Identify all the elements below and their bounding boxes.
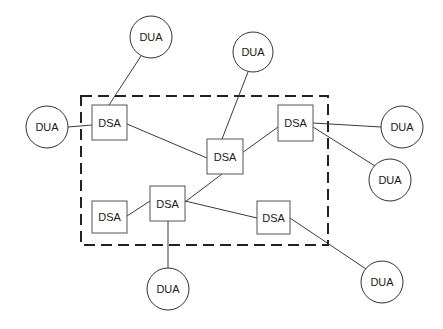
connector-dsa3-dua4 bbox=[313, 123, 381, 127]
node-label: DUA bbox=[35, 121, 59, 133]
dsa-node-dsa5: DSA bbox=[150, 186, 185, 221]
dua-node-dua3: DUA bbox=[233, 32, 273, 72]
dua-node-dua5: DUA bbox=[369, 159, 411, 201]
dua-node-dua6: DUA bbox=[147, 268, 189, 310]
connector-dsa2-dsa3 bbox=[242, 127, 278, 153]
node-label: DSA bbox=[262, 212, 285, 224]
node-label: DUA bbox=[241, 46, 265, 58]
dua-node-dua2: DUA bbox=[26, 106, 68, 148]
dua-node-dua4: DUA bbox=[381, 106, 423, 148]
connector-dsa3-dua5 bbox=[313, 127, 375, 166]
node-label: DUA bbox=[139, 31, 163, 43]
dsa-node-dsa3: DSA bbox=[278, 105, 313, 141]
dsa-node-dsa6: DSA bbox=[257, 201, 290, 234]
connector-dsa2-dsa5 bbox=[185, 174, 222, 202]
dsa-node-dsa1: DSA bbox=[92, 105, 127, 140]
connector-dsa4-dsa5 bbox=[127, 201, 150, 216]
node-label: DSA bbox=[98, 211, 121, 223]
node-label: DUA bbox=[378, 174, 402, 186]
dsa-node-dsa4: DSA bbox=[92, 201, 127, 233]
connector-dua3-dsa2 bbox=[222, 72, 248, 139]
node-label: DSA bbox=[284, 117, 307, 129]
node-label: DUA bbox=[370, 276, 394, 288]
dua-node-dua7: DUA bbox=[361, 261, 403, 303]
connector-dsa1-dsa2 bbox=[127, 124, 207, 158]
dsa-dua-network-diagram: DSADSADSADSADSADSADUADUADUADUADUADUADUA bbox=[0, 0, 443, 329]
node-label: DSA bbox=[98, 117, 121, 129]
connector-dua1-dsa1 bbox=[109, 56, 141, 105]
node-label: DUA bbox=[390, 121, 414, 133]
node-label: DSA bbox=[214, 151, 237, 163]
dsa-node-dsa2: DSA bbox=[207, 139, 243, 174]
connector-dua2-dsa1 bbox=[68, 125, 92, 127]
diagram-canvas: DSADSADSADSADSADSADUADUADUADUADUADUADUA bbox=[0, 0, 443, 329]
dua-node-dua1: DUA bbox=[130, 16, 172, 58]
node-label: DSA bbox=[156, 198, 179, 210]
nodes-layer: DSADSADSADSADSADSADUADUADUADUADUADUADUA bbox=[26, 16, 423, 310]
node-label: DUA bbox=[156, 283, 180, 295]
connector-dsa5-dsa6 bbox=[185, 201, 257, 218]
